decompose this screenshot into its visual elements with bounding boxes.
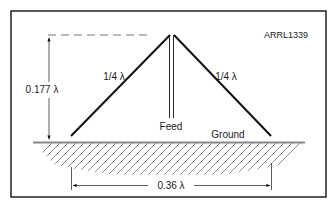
height-label: 0.177 λ xyxy=(26,84,59,95)
antenna-diagram: ARRL1339 0.177 λ 1/4 λ 1/4 λ Feed Ground xyxy=(0,0,332,213)
left-leg-label: 1/4 λ xyxy=(103,71,125,82)
feed-label: Feed xyxy=(160,121,183,132)
right-leg-label: 1/4 λ xyxy=(215,71,237,82)
base-width-label: 0.36 λ xyxy=(157,180,184,191)
ground-label: Ground xyxy=(211,129,244,140)
figure-id: ARRL1339 xyxy=(264,30,308,40)
